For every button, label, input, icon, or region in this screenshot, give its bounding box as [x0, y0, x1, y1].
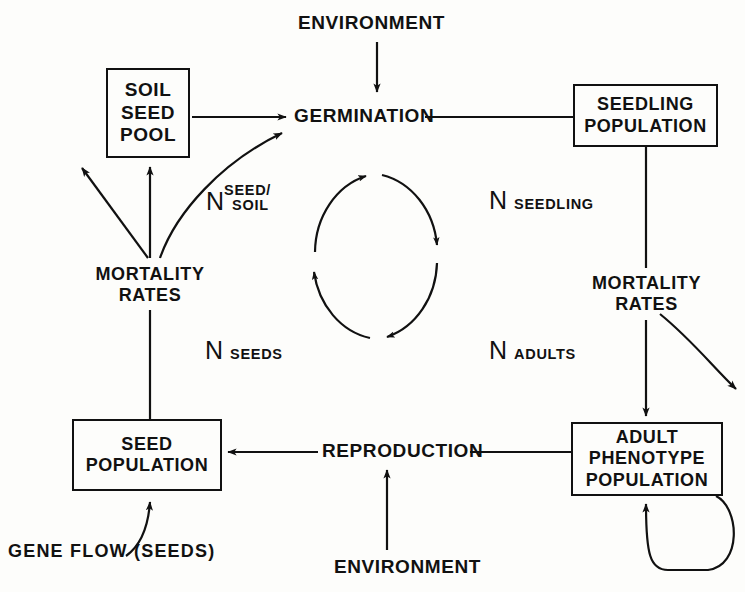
node-seedling-population-line-2: POPULATION — [584, 116, 707, 137]
connector-mortality-right-curve-out — [660, 314, 736, 389]
label-reproduction-text: REPRODUCTION — [322, 440, 483, 462]
node-adult-phenotype-population[interactable]: ADULT PHENOTYPE POPULATION — [571, 422, 723, 496]
node-seedling-population[interactable]: SEEDLING POPULATION — [573, 84, 718, 147]
label-mortality-rates-right: MORTALITY RATES — [589, 273, 704, 315]
label-environment-bottom: ENVIRONMENT — [334, 556, 481, 578]
connector-central-cycle-arc-right — [382, 175, 437, 245]
label-germination-text: GERMINATION — [294, 105, 434, 127]
label-gene-flow-seeds-text: GENE FLOW (SEEDS) — [8, 541, 215, 562]
variable-n-seedling-sub-1: SEEDLING — [507, 196, 594, 212]
label-mortality-rates-right-line-1: MORTALITY — [589, 273, 704, 294]
node-adult-phenotype-population-line-3: POPULATION — [586, 470, 709, 491]
node-seed-population-line-2: POPULATION — [86, 455, 209, 476]
label-mortality-rates-left-line-2: RATES — [80, 285, 220, 306]
node-soil-seed-pool-line-3: POOL — [120, 124, 176, 146]
variable-n-seedling-symbol: N — [489, 186, 507, 214]
node-soil-seed-pool-line-2: SEED — [121, 102, 175, 124]
variable-n-seeds: NSEEDS — [205, 336, 283, 365]
variable-n-seed-soil-sub-1: SEED/ — [224, 183, 271, 198]
variable-n-seeds-symbol: N — [205, 336, 223, 364]
node-soil-seed-pool[interactable]: SOIL SEED POOL — [106, 68, 190, 158]
node-seed-population[interactable]: SEED POPULATION — [72, 419, 222, 491]
label-mortality-rates-left-line-1: MORTALITY — [80, 264, 220, 285]
flow-diagram: SOIL SEED POOL SEEDLING POPULATION SEED … — [0, 0, 745, 592]
variable-n-seeds-sub-1: SEEDS — [223, 346, 283, 362]
label-mortality-rates-right-line-2: RATES — [589, 294, 704, 315]
connector-central-cycle-arc-top — [315, 176, 366, 252]
variable-n-adults: NADULTS — [489, 336, 576, 365]
connector-central-cycle-arc-left — [314, 272, 370, 338]
label-gene-flow-seeds: GENE FLOW (SEEDS) — [8, 541, 215, 562]
connector-adult-population-self-loop — [646, 496, 734, 570]
label-environment-top: ENVIRONMENT — [298, 12, 445, 34]
variable-n-adults-symbol: N — [489, 336, 507, 364]
connector-central-cycle-arc-bottom — [387, 263, 437, 337]
node-adult-phenotype-population-line-2: PHENOTYPE — [589, 448, 705, 469]
node-seedling-population-line-1: SEEDLING — [597, 94, 694, 115]
variable-n-seed-soil-sub-2: SOIL — [224, 198, 271, 213]
label-germination[interactable]: GERMINATION — [294, 105, 434, 127]
variable-n-seed-soil: NSEED/SOIL — [206, 183, 271, 216]
label-mortality-rates-left: MORTALITY RATES — [80, 264, 220, 306]
node-soil-seed-pool-line-1: SOIL — [125, 79, 172, 101]
node-seed-population-line-1: SEED — [121, 434, 172, 455]
label-reproduction[interactable]: REPRODUCTION — [322, 440, 483, 462]
label-environment-top-text: ENVIRONMENT — [298, 12, 445, 34]
label-environment-bottom-text: ENVIRONMENT — [334, 556, 481, 578]
variable-n-seedling: NSEEDLING — [489, 186, 594, 215]
variable-n-adults-sub-1: ADULTS — [507, 346, 576, 362]
connector-mortality-left-upper-left-arrow — [82, 168, 148, 258]
variable-n-seed-soil-symbol: N — [206, 187, 224, 215]
node-adult-phenotype-population-line-1: ADULT — [616, 427, 679, 448]
